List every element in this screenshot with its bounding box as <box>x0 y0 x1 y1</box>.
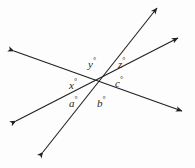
line-lower-left-steep-to-upper-right-steep <box>43 8 157 152</box>
angle-label-y: y° <box>88 57 96 70</box>
angle-label-c: c° <box>115 76 123 89</box>
angle-label-x: x° <box>69 78 77 91</box>
angle-label-a: a° <box>69 96 78 109</box>
geometry-figure: y° z° c° x° a° b° <box>0 0 195 168</box>
angle-label-z: z° <box>118 57 125 70</box>
figure-svg <box>0 0 195 168</box>
angle-label-b: b° <box>97 96 106 109</box>
